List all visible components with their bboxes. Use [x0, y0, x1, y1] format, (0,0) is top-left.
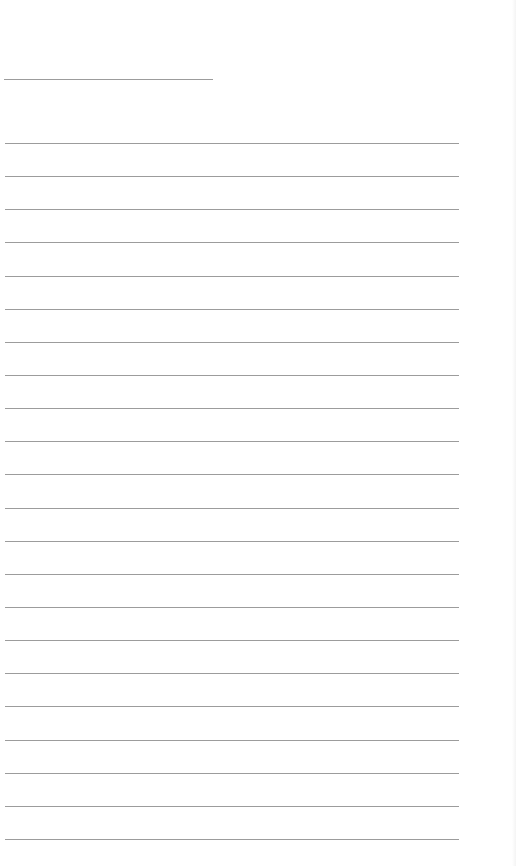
ruled-line: [5, 607, 459, 608]
ruled-line: [5, 706, 459, 707]
lined-paper-page: [0, 0, 516, 866]
ruled-line: [5, 541, 459, 542]
ruled-line: [5, 574, 459, 575]
title-underline: [4, 79, 213, 80]
ruled-line: [5, 242, 459, 243]
ruled-line: [5, 474, 459, 475]
ruled-line: [5, 640, 459, 641]
ruled-line: [5, 508, 459, 509]
ruled-line: [5, 806, 459, 807]
ruled-line: [5, 441, 459, 442]
ruled-line: [5, 408, 459, 409]
ruled-line: [5, 375, 459, 376]
ruled-line: [5, 342, 459, 343]
ruled-line: [5, 740, 459, 741]
ruled-line: [5, 773, 459, 774]
ruled-line: [5, 839, 459, 840]
ruled-line: [5, 209, 459, 210]
ruled-line: [5, 143, 459, 144]
page-edge-shadow: [512, 0, 516, 866]
ruled-line: [5, 309, 459, 310]
ruled-line: [5, 673, 459, 674]
ruled-line: [5, 276, 459, 277]
ruled-line: [5, 176, 459, 177]
